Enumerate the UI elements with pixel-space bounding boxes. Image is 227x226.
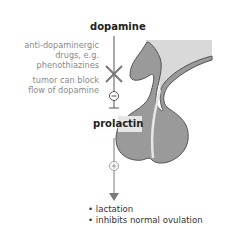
effects-list: • lactation • inhibits normal ovulation [88,204,203,225]
effect-item: • inhibits normal ovulation [88,215,203,226]
tumor-note-line: tumor can block [0,75,99,85]
drug-note-line: phenothiazines [0,60,99,70]
tumor-note: tumor can block flow of dopamine [0,75,99,95]
tumor-note-line: flow of dopamine [0,85,99,95]
prolactin-label: prolactin [93,118,143,129]
pituitary-diagram [0,0,227,225]
drug-note-line: anti-dopaminergic [0,40,99,50]
drug-note-line: drugs, e.g. [0,50,99,60]
drug-note: anti-dopaminergic drugs, e.g. phenothiaz… [0,40,99,70]
arrow-head-icon [109,193,119,201]
dopamine-label: dopamine [90,21,146,32]
effect-item: • lactation [88,204,203,215]
